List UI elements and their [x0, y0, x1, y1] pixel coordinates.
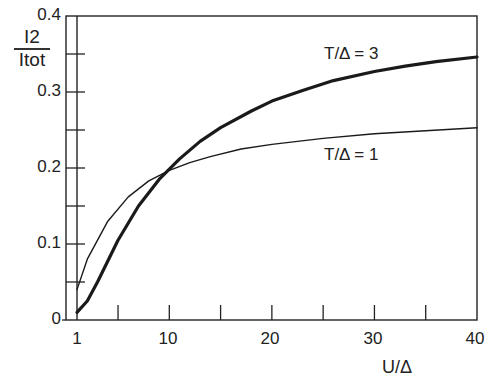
chart-plot-area: [0, 0, 494, 384]
x-tick-label: 40: [455, 329, 494, 349]
data-series: [77, 57, 477, 312]
x-tick-label: 10: [148, 329, 188, 349]
x-axis-label: U/Δ: [382, 357, 412, 378]
axis-ticks: [62, 54, 426, 320]
series-label-t3: T/Δ = 3: [324, 44, 378, 64]
y-tick-label: 0.1: [21, 233, 61, 253]
y-tick-label: 0.2: [21, 157, 61, 177]
y-axis-label-numerator: I2: [10, 26, 54, 48]
y-tick-label: 0.3: [21, 81, 61, 101]
y-axis-label-denominator: Itot: [10, 50, 54, 70]
axes-frame: [66, 16, 477, 320]
y-tick-label: 0: [21, 309, 61, 329]
series-line-t3: [77, 57, 477, 312]
x-tick-label: 1: [57, 329, 97, 349]
y-axis-label: I2 Itot: [10, 26, 54, 70]
x-tick-label: 20: [250, 329, 290, 349]
series-label-t1: T/Δ = 1: [324, 145, 378, 165]
axes-box: [66, 16, 477, 320]
x-tick-label: 30: [353, 329, 393, 349]
y-tick-label: 0.4: [21, 5, 61, 25]
